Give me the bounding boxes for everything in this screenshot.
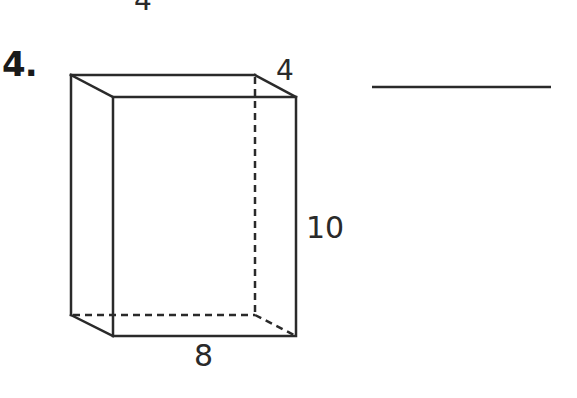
front-face: [113, 97, 296, 336]
width-dimension-label: 8: [194, 338, 213, 373]
height-dimension-label: 10: [306, 210, 344, 245]
depth-dimension-label: 4: [276, 54, 294, 87]
hidden-depth-edge: [255, 315, 296, 336]
top-left-depth-edge: [71, 75, 113, 97]
bottom-left-depth-edge: [71, 315, 113, 336]
